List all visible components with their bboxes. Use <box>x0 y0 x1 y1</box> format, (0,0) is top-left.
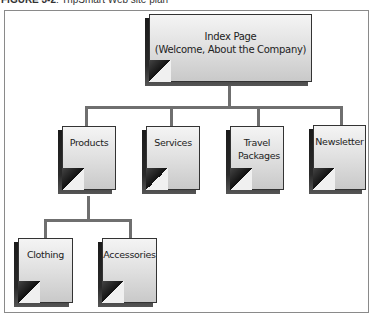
page-label: Clothing <box>18 248 73 261</box>
connector-products <box>85 106 88 126</box>
page-node-services: Services <box>146 126 200 190</box>
page-node-accessories: Accessories <box>102 238 157 303</box>
connector-services <box>170 106 173 126</box>
page-node-newsletter: Newsletter <box>313 125 366 190</box>
connector-products-down <box>87 196 90 220</box>
folded-corner-icon <box>62 168 84 190</box>
connector-travel <box>257 106 260 126</box>
figure-title: : TripSmart Web site plan <box>56 0 168 5</box>
page-label: Products <box>62 136 116 149</box>
connector-accessories <box>129 219 132 238</box>
page-node-clothing: Clothing <box>18 238 73 303</box>
folded-corner-icon <box>230 168 252 190</box>
connector-clothing <box>44 219 47 238</box>
figure-caption: FIGURE 3-2: TripSmart Web site plan <box>1 0 168 6</box>
folded-corner-icon <box>102 281 124 303</box>
folded-corner-icon <box>18 281 40 303</box>
folded-corner-icon <box>313 168 335 190</box>
page-label: Newsletter <box>313 135 366 148</box>
connector-newsletter <box>340 106 343 126</box>
page-title: Index Page <box>149 30 312 43</box>
page-label: Index Page (Welcome, About the Company) <box>149 30 312 56</box>
connector-root-down <box>228 86 231 108</box>
page-node-products: Products <box>62 126 116 190</box>
page-label: Accessories <box>102 248 157 261</box>
connector-level2-bar <box>44 219 132 222</box>
page-node-index: Index Page (Welcome, About the Company) <box>149 14 312 82</box>
page-label: Services <box>146 136 200 149</box>
connector-level1-bar <box>85 106 343 109</box>
figure-label: FIGURE 3-2 <box>1 0 56 5</box>
page-label: Travel Packages <box>230 136 284 162</box>
page-subtitle: (Welcome, About the Company) <box>149 43 312 56</box>
folded-corner-icon <box>146 168 168 190</box>
page-node-travel-packages: Travel Packages <box>230 126 284 190</box>
folded-corner-icon <box>149 60 171 82</box>
